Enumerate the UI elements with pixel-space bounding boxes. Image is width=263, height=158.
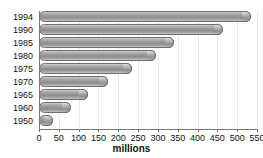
y-tick-label-1950: 1950 <box>13 115 33 128</box>
x-axis-title: millions <box>0 143 263 154</box>
x-tick-label-250: 250 <box>131 133 146 143</box>
x-tick-label-200: 200 <box>111 133 126 143</box>
bar-row <box>39 50 156 63</box>
bar-row <box>39 76 108 89</box>
bar-1985 <box>39 37 174 48</box>
x-tick-label-350: 350 <box>170 133 185 143</box>
bar-row <box>39 24 223 37</box>
bar-row <box>39 11 251 24</box>
y-axis-line <box>39 11 40 130</box>
y-tick-label-1994: 1994 <box>13 11 33 24</box>
y-tick-label-1965: 1965 <box>13 89 33 102</box>
bar-series <box>39 11 257 128</box>
bar-1975 <box>39 63 132 74</box>
bar-1950 <box>39 115 53 126</box>
gridline-550 <box>257 11 258 128</box>
bar-1965 <box>39 89 88 100</box>
chart-title-clipped <box>0 0 263 7</box>
x-tick-label-450: 450 <box>210 133 225 143</box>
bar-row <box>39 89 88 102</box>
y-tick-label-1970: 1970 <box>13 76 33 89</box>
x-tick-label-400: 400 <box>190 133 205 143</box>
bar-1970 <box>39 76 108 87</box>
bar-1960 <box>39 102 71 113</box>
x-tick-label-500: 500 <box>230 133 245 143</box>
x-tick-label-50: 50 <box>54 133 64 143</box>
plot-area <box>39 11 257 128</box>
y-axis-tick-labels: 199419901985198019751970196519601950 <box>0 11 36 128</box>
bar-1994 <box>39 11 251 22</box>
x-tick-label-300: 300 <box>150 133 165 143</box>
x-tick-label-550: 550 <box>249 133 263 143</box>
bar-row <box>39 102 71 115</box>
bar-row <box>39 115 53 128</box>
y-tick-label-1990: 1990 <box>13 24 33 37</box>
x-tick-label-0: 0 <box>36 133 41 143</box>
bar-1990 <box>39 24 223 35</box>
bar-row <box>39 63 132 76</box>
x-axis-tick-labels: 050100150200250300350400450500550 <box>0 130 263 144</box>
y-tick-label-1980: 1980 <box>13 50 33 63</box>
x-tick-label-100: 100 <box>71 133 86 143</box>
bar-row <box>39 37 174 50</box>
bar-chart: 199419901985198019751970196519601950 050… <box>0 0 263 158</box>
y-tick-label-1985: 1985 <box>13 37 33 50</box>
x-tick-label-150: 150 <box>91 133 106 143</box>
y-tick-label-1960: 1960 <box>13 102 33 115</box>
bar-1980 <box>39 50 156 61</box>
y-tick-label-1975: 1975 <box>13 63 33 76</box>
